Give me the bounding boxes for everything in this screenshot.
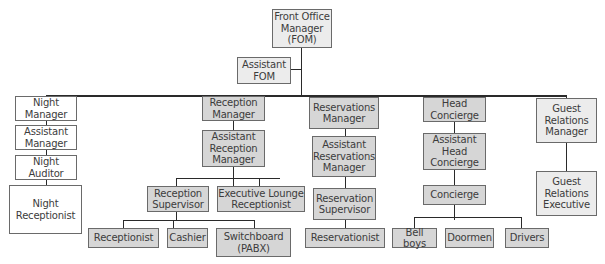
front-office-manager-box: Front Office Manager (FOM) [272,9,332,48]
doormen-box: Doormen [445,228,494,248]
connector-line [521,217,522,228]
connector-line [46,95,567,97]
assistant-fom-box: Assistant FOM [237,57,291,84]
receptionist-box: Receptionist [88,228,159,248]
cashier-box: Cashier [167,228,208,248]
connector-line [176,178,177,186]
connector-line [173,220,174,228]
drivers-box: Drivers [505,228,549,248]
bell-boys-box: Bell boys [392,228,437,248]
assistant-reservations-manager-box: Assistant Reservations Manager [312,136,376,177]
night-receptionist-box: Night Receptionist [9,185,82,234]
reservationist-box: Reservationist [305,228,385,248]
switchboard-box: Switchboard (PABX) [216,228,291,257]
head-concierge-box: Head Concierge [423,97,486,122]
connector-line [259,178,260,186]
connector-line [176,212,177,220]
connector-line [254,220,255,228]
connector-line [290,69,301,70]
connector-line [123,220,255,221]
org-chart: Front Office Manager (FOM) Assistant FOM… [0,0,605,264]
assistant-head-concierge-box: Assistant Head Concierge [423,133,486,170]
reservation-supervisor-box: Reservation Supervisor [313,188,376,220]
assistant-reception-manager-box: Assistant Reception Manager [202,130,265,167]
executive-lounge-receptionist-box: Executive Lounge Receptionist [217,186,305,212]
guest-relations-manager-box: Guest Relations Manager [536,98,597,143]
reservations-manager-box: Reservations Manager [309,97,379,129]
night-manager-box: Night Manager [15,96,77,121]
reception-manager-box: Reception Manager [202,96,265,121]
concierge-box: Concierge [423,185,486,205]
night-auditor-box: Night Auditor [15,155,77,180]
connector-line [301,47,302,95]
connector-line [414,217,522,218]
connector-line [123,220,124,228]
assistant-manager-box: Assistant Manager [15,125,77,150]
connector-line [176,178,280,179]
reception-supervisor-box: Reception Supervisor [147,186,209,212]
guest-relations-executive-box: Guest Relations Executive [536,171,597,216]
